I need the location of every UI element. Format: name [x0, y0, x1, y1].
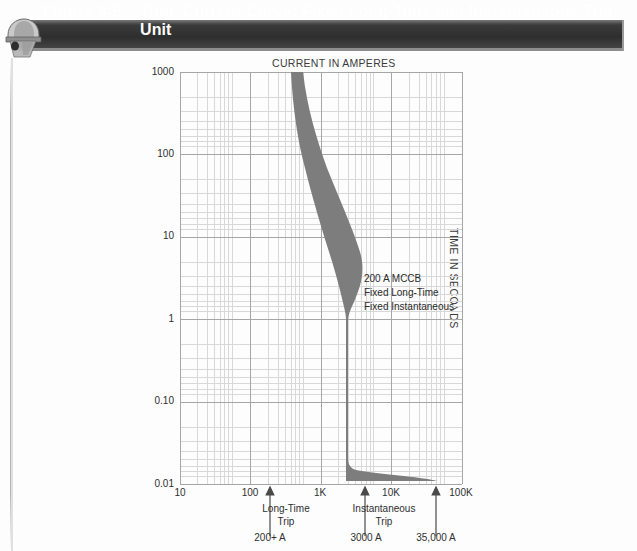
- callout-line-3: Fixed Instantaneous: [364, 300, 454, 314]
- interrupting-rating-value: 35,000 A: [396, 531, 476, 544]
- long-time-trip-label: Long-Time Trip: [246, 502, 326, 528]
- long-time-trip-value: 200+ A: [232, 531, 308, 544]
- long-time-trip-label-line-1: Long-Time: [246, 502, 326, 515]
- long-time-trip-label-line-2: Trip: [246, 515, 326, 528]
- curve-callout: 200 A MCCB Fixed Long-Time Fixed Instant…: [364, 272, 454, 314]
- callout-line-1: 200 A MCCB: [364, 272, 454, 286]
- time-current-chart: CURRENT IN AMPERES TIME IN SECONDS 1000 …: [0, 0, 637, 551]
- plot-canvas: [0, 0, 637, 551]
- instantaneous-trip-label: Instantaneous Trip: [334, 502, 434, 528]
- instantaneous-trip-label-line-2: Trip: [334, 515, 434, 528]
- instantaneous-trip-label-line-1: Instantaneous: [334, 502, 434, 515]
- instantaneous-trip-value: 3000 A: [328, 531, 404, 544]
- figure-page: Figure 8-5 Time-Current Curve: Fixed Lon…: [0, 0, 637, 551]
- callout-line-2: Fixed Long-Time: [364, 286, 454, 300]
